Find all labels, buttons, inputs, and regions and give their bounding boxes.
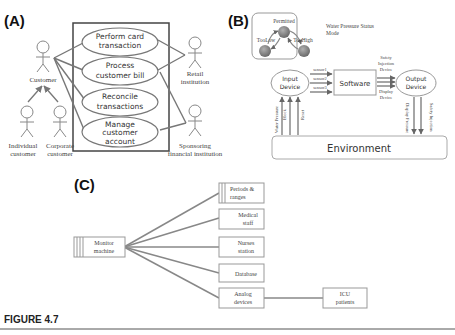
svg-text:customer: customer (102, 128, 138, 137)
svg-text:institution: institution (181, 78, 210, 86)
panel-b-label: (B) (228, 12, 249, 29)
actor-customer-label: Customer (29, 76, 57, 84)
svg-text:Display Pressure: Display Pressure (405, 103, 410, 133)
svg-text:staff: staff (243, 220, 254, 226)
actor-individual-icon (20, 106, 34, 137)
actor-retail-icon (188, 37, 202, 68)
svg-text:ICU: ICU (340, 291, 351, 297)
use-case-manage-account: Manage customer account (82, 117, 158, 147)
svg-text:Device: Device (280, 83, 301, 90)
svg-text:sensor2: sensor2 (313, 76, 327, 81)
svg-text:Individual: Individual (9, 142, 38, 150)
state-toohigh-icon (298, 45, 310, 57)
svg-text:Water Pressure Status: Water Pressure Status (326, 23, 374, 29)
svg-text:patients: patients (336, 299, 355, 305)
panel-c: (C) Monitor machine Periods & ranges (74, 176, 367, 308)
svg-text:Safety: Safety (380, 55, 392, 60)
panel-a-label: (A) (4, 12, 25, 29)
svg-text:Display: Display (379, 89, 394, 94)
svg-text:customer bill: customer bill (96, 71, 145, 80)
actor-sponsoring-icon (188, 105, 202, 136)
use-case-reconcile: Reconcile transactions (82, 88, 158, 116)
svg-text:sensor1: sensor1 (313, 67, 327, 72)
svg-text:Perform card: Perform card (96, 32, 144, 41)
svg-text:Block: Block (282, 109, 287, 120)
svg-text:Device: Device (406, 83, 427, 90)
svg-text:Nurses: Nurses (238, 240, 255, 246)
svg-text:Water Pressure: Water Pressure (274, 106, 279, 133)
svg-text:customer: customer (10, 150, 36, 158)
use-case-process-bill: Process customer bill (82, 57, 158, 85)
node-database: Database (219, 264, 264, 282)
panel-c-label: (C) (74, 176, 95, 193)
svg-text:Input: Input (282, 75, 298, 83)
svg-text:financial institution: financial institution (168, 150, 223, 158)
svg-text:ranges: ranges (230, 194, 246, 200)
node-icu-patients: ICU patients (323, 288, 367, 308)
svg-text:Device: Device (380, 67, 393, 72)
actor-customer-icon (36, 41, 50, 72)
actor-corporate-icon (53, 106, 67, 137)
node-analog-devices: Analog devices (219, 288, 264, 308)
figure-caption: FIGURE 4.7 (4, 314, 59, 325)
figure-canvas: (A) Perform card transaction Process cus… (0, 0, 455, 335)
svg-text:Corporate: Corporate (46, 142, 74, 150)
svg-text:Sponsoring: Sponsoring (179, 142, 211, 150)
output-arrows (377, 78, 395, 86)
svg-text:Permitted: Permitted (273, 18, 295, 24)
svg-text:Retail: Retail (187, 70, 204, 78)
svg-text:transactions: transactions (97, 102, 143, 111)
node-monitor-machine: Monitor machine (74, 237, 125, 257)
svg-text:TooLow: TooLow (257, 37, 276, 43)
node-medical-staff: Medical staff (219, 209, 264, 229)
svg-text:machine: machine (94, 248, 115, 254)
svg-text:Periods &: Periods & (230, 186, 255, 192)
svg-text:Safety Injection: Safety Injection (429, 103, 434, 132)
use-case-perform-card: Perform card transaction (82, 28, 158, 56)
state-toolow-icon (259, 45, 271, 57)
svg-text:transaction: transaction (99, 41, 142, 50)
svg-text:Database: Database (235, 271, 257, 277)
svg-text:Reconcile: Reconcile (102, 92, 138, 101)
svg-text:sensor3: sensor3 (313, 85, 327, 90)
environment-output-arrows (414, 97, 421, 134)
svg-text:Environment: Environment (327, 143, 391, 154)
svg-text:TooHigh: TooHigh (293, 37, 313, 43)
node-nurses-station: Nurses station (219, 237, 264, 257)
svg-text:account: account (105, 137, 135, 146)
svg-text:Reset: Reset (300, 109, 305, 120)
state-permitted-icon (278, 26, 290, 38)
svg-text:Device: Device (380, 95, 393, 100)
svg-text:Output: Output (406, 75, 427, 83)
svg-text:Injection: Injection (378, 61, 395, 66)
svg-text:Monitor: Monitor (94, 240, 114, 246)
svg-text:devices: devices (234, 299, 253, 305)
panel-a: (A) Perform card transaction Process cus… (4, 12, 223, 158)
svg-text:Process: Process (106, 61, 135, 70)
svg-text:customer: customer (47, 150, 73, 158)
panel-b: (B) Permitted TooLow TooHigh Water Press… (228, 12, 447, 159)
svg-text:Software: Software (340, 80, 371, 88)
svg-text:Medical: Medical (238, 212, 258, 218)
svg-text:Analog: Analog (234, 291, 252, 297)
svg-text:Mode: Mode (326, 30, 339, 36)
node-periods-ranges: Periods & ranges (219, 183, 264, 203)
svg-text:station: station (238, 248, 254, 254)
